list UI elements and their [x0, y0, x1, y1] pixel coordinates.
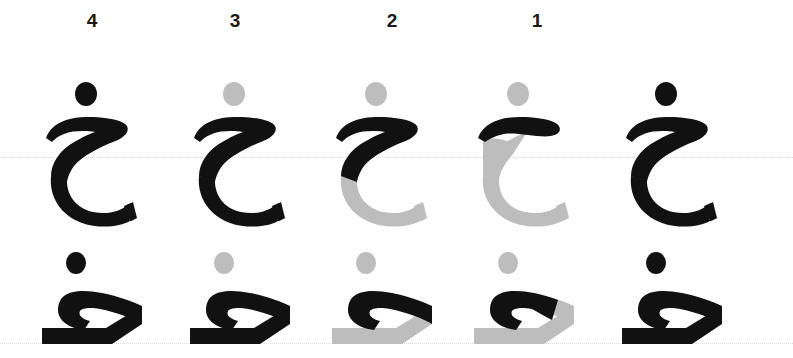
column-label-1: 1 — [517, 10, 557, 32]
glyph-isolated-step-4 — [20, 72, 170, 222]
glyph-connected-step-2 — [310, 248, 460, 352]
glyph-isolated-complete — [600, 72, 750, 222]
glyph-isolated-step-3 — [168, 72, 318, 222]
letter-dot — [498, 252, 518, 274]
glyph-connected-step-3 — [168, 248, 318, 352]
letter-dot — [365, 82, 387, 106]
letter-bowl-stroke — [631, 176, 710, 227]
letter-dot — [655, 82, 677, 106]
letter-upper-body-ghost — [483, 132, 527, 182]
glyph-connected-complete — [600, 248, 750, 352]
column-label-2: 2 — [372, 10, 412, 32]
letter-dot — [223, 82, 245, 106]
stroke-order-figure: 4 3 2 1 — [0, 0, 793, 358]
letter-dot — [66, 252, 86, 274]
glyph-connected-step-1 — [452, 248, 602, 352]
letter-top-stroke — [194, 117, 276, 182]
letter-bowl-stroke — [199, 176, 278, 227]
letter-top-stroke — [336, 117, 418, 182]
column-label-3: 3 — [215, 10, 255, 32]
letter-dot — [75, 82, 97, 106]
glyph-connected-step-4 — [20, 248, 170, 352]
letter-top-stroke — [626, 117, 708, 182]
column-label-4: 4 — [72, 10, 112, 32]
letter-dot — [646, 252, 666, 274]
letter-dot — [507, 82, 529, 106]
glyph-isolated-step-2 — [310, 72, 460, 222]
letter-bowl-stroke — [51, 176, 130, 227]
letter-bowl-stroke — [483, 176, 562, 227]
letter-dot — [356, 252, 376, 274]
letter-dot — [214, 252, 234, 274]
letter-bowl-stroke — [341, 176, 420, 227]
glyph-isolated-step-1 — [452, 72, 602, 222]
letter-top-stroke — [46, 117, 128, 182]
